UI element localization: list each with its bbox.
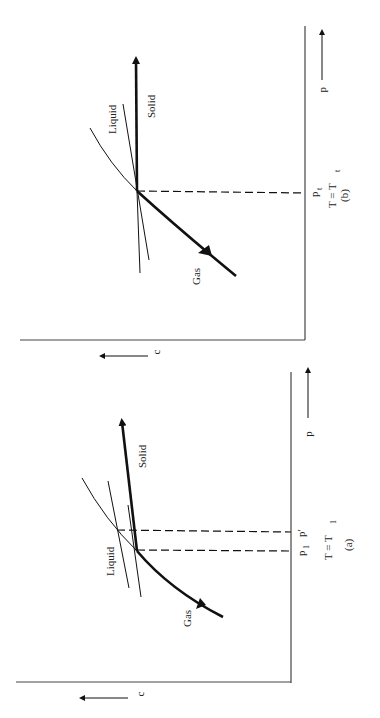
svg-text:1: 1 xyxy=(302,545,311,549)
c-axis-label: c xyxy=(134,691,146,696)
condition-label: T = T 1 xyxy=(322,520,338,560)
gas-label: Gas xyxy=(190,268,202,285)
svg-text:p: p xyxy=(295,550,307,556)
liquid-label: Liquid xyxy=(106,104,118,134)
panel-caption-b: (b) xyxy=(338,189,351,202)
dashed-pprime-line xyxy=(117,530,291,532)
dashed-pt-line xyxy=(137,191,305,193)
solid-label: Solid xyxy=(145,94,157,118)
gas-curve xyxy=(137,191,236,276)
c-axis-label: c xyxy=(150,349,162,354)
solid-curve xyxy=(136,60,137,191)
p-axis-label: p xyxy=(316,87,328,93)
svg-text:1: 1 xyxy=(329,520,338,524)
tick-label-pt: p t xyxy=(308,187,324,197)
solid-label: Solid xyxy=(136,444,148,468)
svg-text:t: t xyxy=(333,169,342,172)
dashed-p1-line xyxy=(137,550,291,551)
panel-caption-a: (a) xyxy=(342,538,355,551)
p-axis-label: p xyxy=(302,431,314,437)
svg-text:p: p xyxy=(308,191,320,197)
solid-curve xyxy=(122,422,137,551)
liquid-label: Liquid xyxy=(104,546,116,576)
phase-diagram-figure: p c Liquid Solid Gas p t T = T t (b) xyxy=(0,0,380,718)
tick-label-pprime: p′ xyxy=(295,529,307,537)
liquid-curve xyxy=(90,128,137,191)
tick-label-p1: p 1 xyxy=(295,545,311,556)
gas-label: Gas xyxy=(181,610,193,627)
gas-curve xyxy=(137,551,223,617)
svg-text:T = T: T = T xyxy=(322,535,334,560)
svg-text:t: t xyxy=(315,187,324,190)
panel-a: p c Liquid Solid Gas p 1 p′ T = T 1 xyxy=(16,370,355,698)
panel-b: p c Liquid Solid Gas p t T = T t (b) xyxy=(20,26,351,356)
svg-text:T = T: T = T xyxy=(326,183,338,208)
